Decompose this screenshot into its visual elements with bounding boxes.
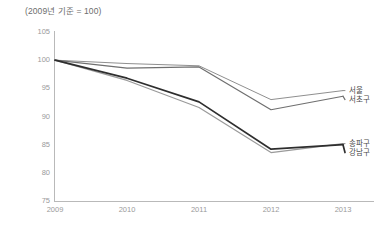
x-axis-tick-2009: 2009 (47, 206, 64, 214)
legend-item-송파구: 송파구 (349, 140, 370, 148)
legend-item-강남구: 강남구 (349, 149, 370, 157)
chart-plot (0, 0, 386, 229)
x-axis-tick-2010: 2010 (119, 206, 136, 214)
legend-item-서초구: 서초구 (349, 96, 370, 104)
series-line-2 (55, 60, 343, 152)
x-axis-tick-2011: 2011 (191, 206, 207, 214)
x-axis-tick-2013: 2013 (335, 206, 352, 214)
x-axis-tick-2012: 2012 (263, 206, 280, 214)
legend-stub-1 (343, 96, 345, 99)
legend-item-서울: 서울 (349, 87, 363, 95)
series-line-0 (55, 60, 343, 99)
chart-container: (2009년 기준 = 100) 1051009590858075 200920… (0, 0, 386, 229)
legend-stub-3 (343, 145, 345, 153)
